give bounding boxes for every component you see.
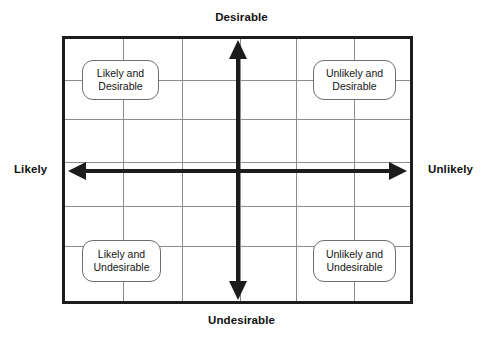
axis-label-likely: Likely (14, 163, 47, 175)
quadrant-label-line2: Undesirable (326, 261, 382, 275)
quadrant-label-line1: Likely and (98, 248, 145, 262)
grid-line-horizontal (65, 119, 410, 120)
quadrant-label-line2: Desirable (332, 80, 376, 94)
quadrant-box-unlikely-desirable: Unlikely and Desirable (313, 60, 396, 100)
quadrant-label-line2: Undesirable (93, 261, 149, 275)
axis-label-unlikely: Unlikely (428, 163, 473, 175)
quadrant-label-line1: Unlikely and (326, 248, 383, 262)
quadrant-label-line1: Unlikely and (326, 67, 383, 81)
quadrant-box-likely-undesirable: Likely and Undesirable (82, 240, 161, 282)
quadrant-label-line1: Likely and (97, 67, 144, 81)
grid-line-vertical (240, 39, 241, 301)
axis-label-undesirable: Undesirable (0, 314, 483, 326)
grid-line-horizontal (65, 206, 410, 207)
quadrant-label-line2: Desirable (98, 80, 142, 94)
likelihood-desirability-matrix: Desirable Undesirable Likely Unlikely Li… (0, 0, 483, 338)
grid-line-vertical (182, 39, 183, 301)
grid-line-vertical (296, 39, 297, 301)
quadrant-box-unlikely-undesirable: Unlikely and Undesirable (313, 240, 396, 282)
axis-label-desirable: Desirable (0, 11, 483, 23)
grid-line-horizontal (65, 162, 410, 163)
quadrant-box-likely-desirable: Likely and Desirable (82, 60, 159, 100)
